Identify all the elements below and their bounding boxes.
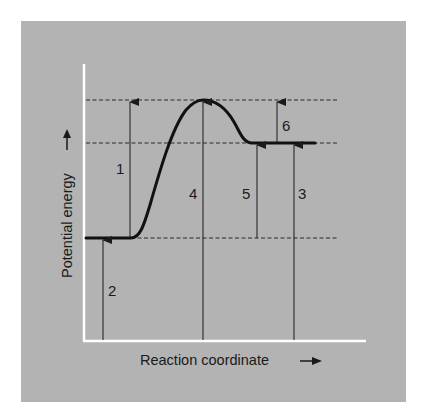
energy-diagram: 1 2 3 4 5 6 Potential energy Reaction co… <box>0 0 422 419</box>
arrow-right-icon <box>300 357 322 365</box>
arrow-5-label: 5 <box>242 185 250 202</box>
x-axis-label: Reaction coordinate <box>140 352 269 368</box>
arrow-2-label: 2 <box>108 282 116 299</box>
arrow-3-label: 3 <box>298 185 306 202</box>
arrow-1-label: 1 <box>116 160 124 177</box>
arrow-6-label: 6 <box>282 117 290 134</box>
arrow-up-icon <box>63 129 71 150</box>
y-axis-label: Potential energy <box>59 172 75 278</box>
axes <box>83 64 366 341</box>
arrow-4-label: 4 <box>189 185 197 202</box>
